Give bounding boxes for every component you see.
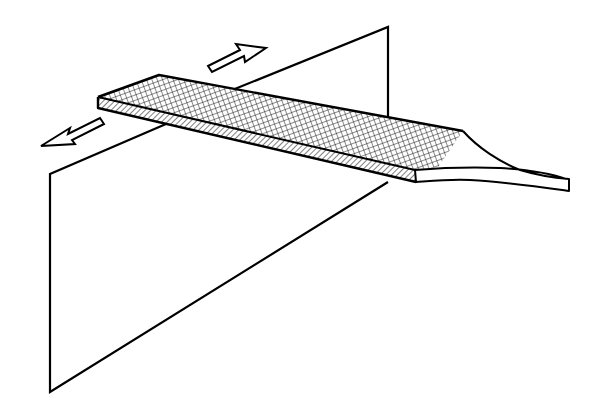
push-arrow-icon bbox=[208, 44, 266, 72]
file-blade-top bbox=[98, 75, 463, 170]
pull-arrow-icon bbox=[41, 118, 104, 146]
diagram-canvas: Flat file tool passing through a plane w… bbox=[0, 0, 605, 416]
file-tool bbox=[98, 75, 569, 191]
vertical-plane bbox=[50, 27, 388, 392]
